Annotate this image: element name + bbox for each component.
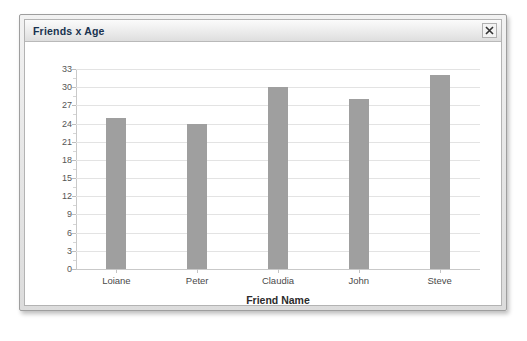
y-axis-tick [72, 269, 76, 270]
y-axis-tick [72, 196, 76, 197]
y-axis-tick-label: 15 [42, 173, 72, 183]
bar[interactable] [187, 124, 207, 269]
y-axis-tick-label: 24 [42, 119, 72, 129]
x-axis-tick [278, 269, 279, 273]
y-axis-tick [72, 142, 76, 143]
y-axis-tick-label: 33 [42, 64, 72, 74]
close-glyph [485, 26, 494, 35]
y-axis-tick-label: 27 [42, 100, 72, 110]
y-axis-tick-label: 9 [42, 209, 72, 219]
y-axis-tick [72, 124, 76, 125]
x-axis-tick [116, 269, 117, 273]
y-axis-tick-label: 3 [42, 246, 72, 256]
x-axis-tick-label: Steve [427, 275, 451, 286]
y-axis-minor-tick [73, 187, 76, 188]
y-axis-minor-tick [73, 169, 76, 170]
y-axis-minor-tick [73, 96, 76, 97]
x-axis-title: Friend Name [76, 294, 480, 306]
y-axis-tick-label: 6 [42, 228, 72, 238]
y-axis-labels: 03691215182124273033 [39, 69, 72, 270]
chart-canvas: 03691215182124273033 Friend Name LoianeP… [25, 42, 501, 305]
window-title: Friends x Age [25, 25, 105, 37]
y-axis-minor-tick [73, 224, 76, 225]
y-axis-tick [72, 69, 76, 70]
y-axis-tick [72, 233, 76, 234]
bar[interactable] [349, 99, 369, 269]
y-axis-tick [72, 178, 76, 179]
y-axis-tick-label: 30 [42, 82, 72, 92]
y-axis-minor-tick [73, 205, 76, 206]
x-axis-tick [197, 269, 198, 273]
plot-area [76, 69, 480, 269]
y-axis-tick-label: 12 [42, 191, 72, 201]
y-axis-minor-tick [73, 260, 76, 261]
y-axis-tick [72, 214, 76, 215]
window-title-bar: Friends x Age [25, 20, 501, 42]
y-axis-minor-tick [73, 78, 76, 79]
x-axis-tick-label: Claudia [262, 275, 294, 286]
bar[interactable] [430, 75, 450, 269]
window-inner: Friends x Age 03691215182124273033 Frien… [24, 19, 502, 306]
y-axis-tick-label: 0 [42, 264, 72, 274]
y-axis-tick [72, 160, 76, 161]
x-axis-tick [359, 269, 360, 273]
close-icon[interactable] [482, 23, 497, 38]
y-axis-tick [72, 251, 76, 252]
y-axis-minor-tick [73, 114, 76, 115]
plot-wrapper: 03691215182124273033 Friend Name LoianeP… [25, 42, 501, 305]
y-axis-minor-tick [73, 151, 76, 152]
y-axis-tick-label: 18 [42, 155, 72, 165]
y-axis-tick [72, 105, 76, 106]
chart-window: Friends x Age 03691215182124273033 Frien… [19, 14, 507, 311]
x-axis-tick-label: John [348, 275, 369, 286]
bar[interactable] [268, 87, 288, 269]
bar[interactable] [106, 118, 126, 270]
y-axis-minor-tick [73, 133, 76, 134]
y-axis-tick-label: 21 [42, 137, 72, 147]
gridline [76, 69, 480, 70]
x-axis-tick-label: Loiane [102, 275, 131, 286]
y-axis-tick [72, 87, 76, 88]
x-axis-tick [440, 269, 441, 273]
x-axis-tick-label: Peter [186, 275, 209, 286]
y-axis-minor-tick [73, 242, 76, 243]
